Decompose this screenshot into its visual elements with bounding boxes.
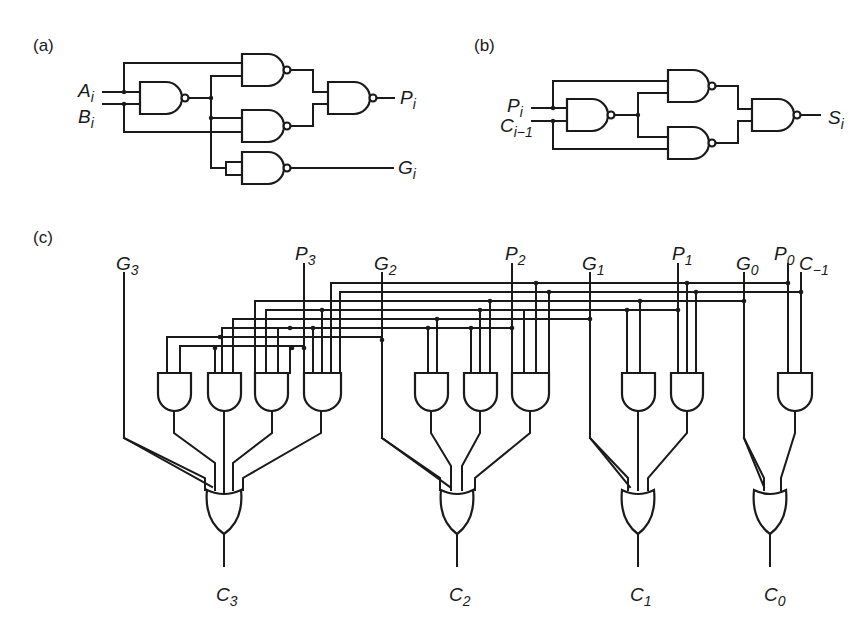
and-gate: [304, 373, 341, 411]
and-gate: [208, 373, 241, 411]
and-gate: [158, 373, 191, 411]
label-Pi-output: Pi: [400, 88, 416, 111]
nand-gate: [242, 110, 284, 142]
and-gate: [671, 373, 703, 411]
or-gate: [207, 490, 242, 534]
or-gate: [441, 490, 474, 534]
label-G3: G3: [116, 254, 139, 277]
or-gate: [754, 490, 787, 534]
nand-gate: [328, 82, 370, 114]
label-C3: C3: [216, 585, 238, 608]
panel-a-circuit: [103, 54, 394, 184]
or-gates: [207, 490, 787, 534]
label-G1: G1: [582, 254, 605, 277]
and-gate: [622, 373, 655, 411]
label-Bi: Bi: [78, 107, 94, 130]
panel-label-a: (a): [33, 37, 54, 54]
label-P2: P2: [505, 244, 525, 267]
label-Ai: Ai: [78, 81, 94, 104]
nand-gate: [668, 127, 709, 159]
label-G2: G2: [374, 254, 397, 277]
label-Ci-1: Ci−1: [500, 116, 533, 139]
and-gate: [778, 373, 812, 411]
and-gate: [255, 373, 288, 411]
panel-label-b: (b): [474, 37, 495, 54]
and-gate: [464, 373, 497, 411]
label-G0: G0: [736, 254, 759, 277]
and-gate: [415, 373, 448, 411]
label-Gi-output: Gi: [398, 158, 416, 181]
nand-gate: [140, 82, 182, 114]
label-C0: C0: [764, 585, 786, 608]
nand-gate: [242, 54, 284, 86]
nand-gate: [242, 152, 284, 184]
label-P3: P3: [295, 244, 315, 267]
label-C1: C1: [630, 585, 652, 608]
label-P0: P0: [774, 244, 794, 267]
nand-gate: [752, 99, 794, 131]
panel-c-circuit: [124, 264, 812, 566]
label-C-1: C−1: [799, 254, 829, 277]
label-Si: Si: [828, 108, 844, 131]
and-gate: [512, 373, 549, 411]
or-gate: [622, 490, 655, 534]
circuit-diagram: [0, 0, 864, 633]
panel-label-c: (c): [33, 229, 53, 246]
nand-gate: [668, 70, 709, 102]
nand-gate: [567, 99, 608, 131]
and-gates: [158, 373, 812, 411]
label-P1: P1: [672, 244, 692, 267]
label-C2: C2: [449, 585, 471, 608]
panel-b-circuit: [532, 70, 820, 159]
